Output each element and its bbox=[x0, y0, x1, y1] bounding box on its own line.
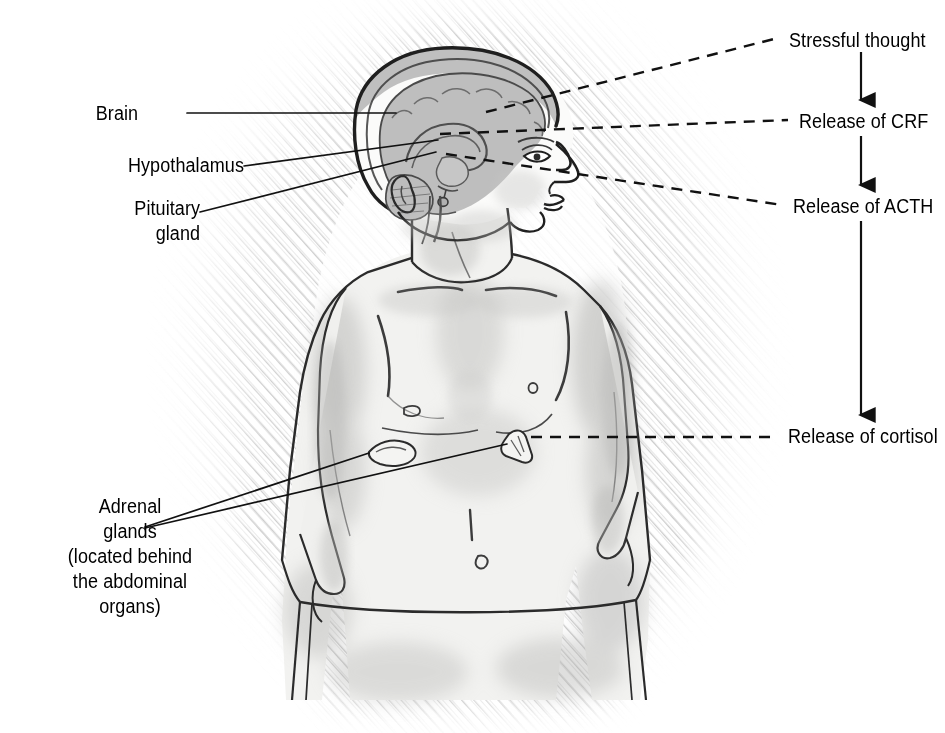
flow-step-stressful-thought: Stressful thought bbox=[789, 28, 926, 53]
flow-step-release-crf: Release of CRF bbox=[799, 109, 928, 134]
flow-step-release-cortisol: Release of cortisol bbox=[788, 424, 938, 449]
flow-step-release-acth: Release of ACTH bbox=[793, 194, 933, 219]
label-pituitary-gland: Pituitary gland bbox=[134, 196, 200, 246]
anatomy-diagram: Brain Hypothalamus Pituitary gland Adren… bbox=[0, 0, 945, 733]
label-adrenal-glands: Adrenal glands (located behind the abdom… bbox=[18, 494, 243, 619]
label-brain: Brain bbox=[96, 101, 138, 126]
label-hypothalamus: Hypothalamus bbox=[128, 153, 244, 178]
